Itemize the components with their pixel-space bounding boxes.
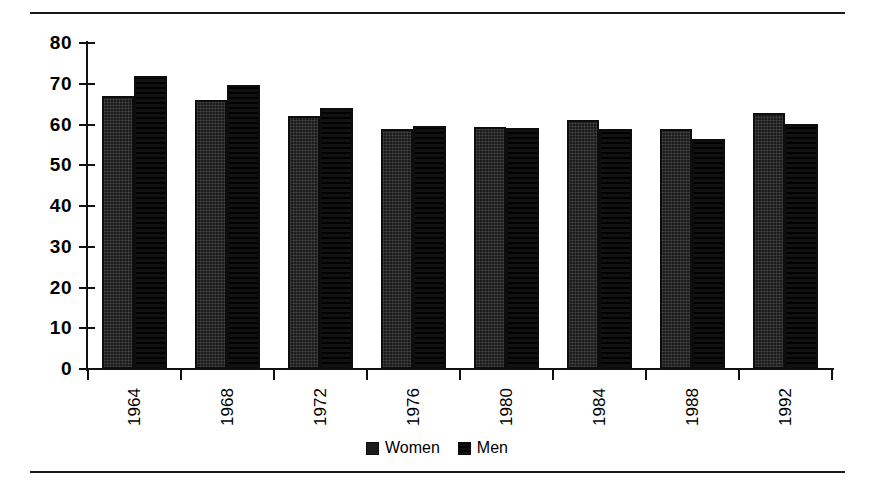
- plot-area: [88, 43, 828, 369]
- y-tick-label-0: 0: [22, 359, 72, 379]
- legend-label-text: Women: [385, 440, 440, 456]
- x-tick-label-1984: 1984: [591, 377, 609, 437]
- x-tick-8: [831, 369, 833, 380]
- bar-men-1976: [413, 126, 445, 369]
- y-tick-label-text: 60: [22, 115, 72, 134]
- y-tick-label-80: 80: [22, 33, 72, 53]
- x-tick-label-1972: 1972: [312, 377, 330, 437]
- bar-women-1976: [381, 129, 413, 369]
- bar-men-1980: [506, 128, 538, 369]
- bar-men-1968: [227, 85, 259, 369]
- bottom-rule: [30, 471, 845, 473]
- legend-item-men[interactable]: Men: [458, 440, 508, 456]
- bar-men-1984: [599, 129, 631, 369]
- bar-group-1968: [195, 43, 259, 369]
- bar-group-1984: [567, 43, 631, 369]
- x-tick-7: [738, 369, 740, 380]
- x-tick-label-1968: 1968: [219, 377, 237, 437]
- x-tick-label-1992: 1992: [777, 377, 795, 437]
- x-tick-label-1980: 1980: [498, 377, 516, 437]
- x-tick-3: [366, 369, 368, 380]
- x-tick-0: [87, 369, 89, 380]
- x-tick-label-1976: 1976: [405, 377, 423, 437]
- y-tick-label-20: 20: [22, 278, 72, 298]
- y-tick-label-30: 30: [22, 237, 72, 257]
- solid-black-swatch: [366, 442, 379, 455]
- bar-women-1972: [288, 116, 320, 369]
- grid-pattern-swatch: [458, 442, 471, 455]
- x-tick-4: [459, 369, 461, 380]
- top-rule: [30, 12, 845, 14]
- bar-group-1980: [474, 43, 538, 369]
- legend-item-women[interactable]: Women: [366, 440, 440, 456]
- y-tick-label-text: 40: [22, 196, 72, 215]
- y-tick-label-50: 50: [22, 155, 72, 175]
- y-tick-label-text: 70: [22, 74, 72, 93]
- bar-group-1964: [102, 43, 166, 369]
- bar-women-1964: [102, 96, 134, 369]
- bar-men-1992: [785, 124, 817, 369]
- bar-men-1988: [692, 139, 724, 369]
- bar-men-1964: [134, 76, 166, 369]
- y-tick-label-40: 40: [22, 196, 72, 216]
- bar-chart-figure: 01020304050607080 1964196819721976198019…: [0, 0, 874, 488]
- x-tick-label-1964: 1964: [126, 377, 144, 437]
- bar-women-1980: [474, 127, 506, 369]
- y-tick-label-text: 80: [22, 33, 72, 52]
- x-tick-1: [180, 369, 182, 380]
- legend-label-text: Men: [477, 440, 508, 456]
- bar-group-1976: [381, 43, 445, 369]
- bar-group-1988: [660, 43, 724, 369]
- y-tick-label-text: 30: [22, 237, 72, 256]
- x-tick-label-1988: 1988: [684, 377, 702, 437]
- x-tick-5: [552, 369, 554, 380]
- y-tick-label-text: 50: [22, 155, 72, 174]
- bar-men-1972: [320, 108, 352, 369]
- bar-women-1984: [567, 120, 599, 369]
- y-tick-label-text: 10: [22, 318, 72, 337]
- bar-women-1968: [195, 100, 227, 369]
- bar-group-1972: [288, 43, 352, 369]
- y-tick-label-70: 70: [22, 74, 72, 94]
- x-tick-2: [273, 369, 275, 380]
- chart-legend: WomenMen: [0, 440, 874, 456]
- bar-women-1992: [753, 113, 785, 369]
- bar-women-1988: [660, 129, 692, 369]
- bar-group-1992: [753, 43, 817, 369]
- x-tick-6: [645, 369, 647, 380]
- y-tick-label-60: 60: [22, 115, 72, 135]
- y-tick-label-text: 20: [22, 278, 72, 297]
- y-tick-label-text: 0: [22, 359, 72, 378]
- y-tick-label-10: 10: [22, 318, 72, 338]
